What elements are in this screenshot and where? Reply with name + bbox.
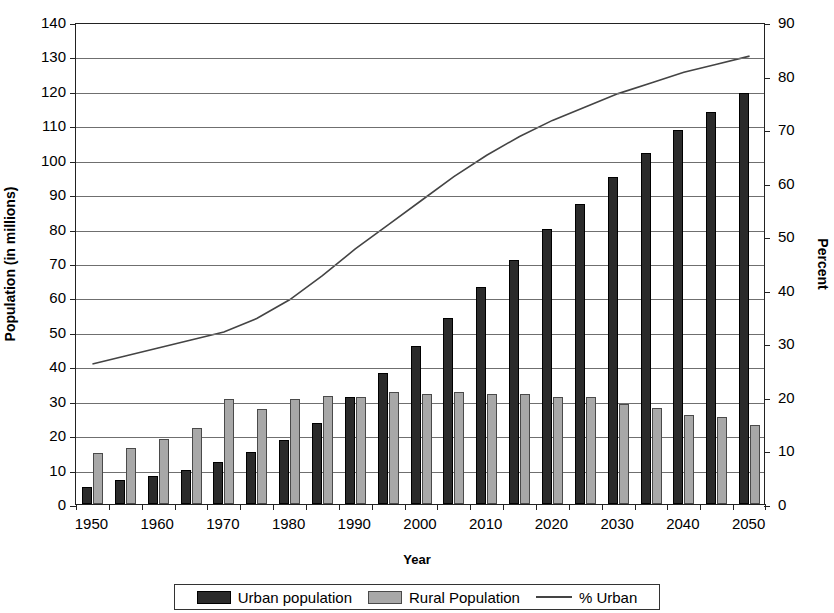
y-tick-label-right: 40 [778,284,822,298]
gridline [76,162,764,163]
y-tick-mark-left [70,334,76,335]
gridline [76,93,764,94]
x-tick-mark [76,504,77,510]
bar-rural-population [126,448,136,504]
x-tick-label: 2050 [719,515,779,532]
chart-legend: Urban population Rural Population % Urba… [174,584,660,610]
bar-rural-population [487,394,497,504]
bar-urban-population [706,112,716,504]
bar-rural-population [389,392,399,504]
y-tick-label-right: 30 [778,337,822,351]
x-tick-mark [273,504,274,510]
x-tick-mark [405,504,406,510]
y-tick-label-right: 10 [778,444,822,458]
y-tick-mark-right [764,24,770,25]
bar-urban-population [82,487,92,504]
bar-urban-population [575,204,585,504]
x-tick-mark [109,504,110,510]
bar-rural-population [356,397,366,504]
x-tick-mark [733,504,734,510]
legend-swatch-urban-icon [197,591,231,604]
y-tick-label-left: 120 [22,85,66,99]
x-tick-mark [339,504,340,510]
x-tick-label: 2020 [521,515,581,532]
bar-urban-population [542,229,552,504]
legend-label-percent-urban: % Urban [579,589,637,606]
x-tick-mark [372,504,373,510]
x-tick-mark [765,504,766,510]
y-tick-label-right: 90 [778,16,822,30]
x-tick-label: 1980 [259,515,319,532]
y-tick-label-left: 10 [22,464,66,478]
gridline [76,265,764,266]
legend-item-percent-urban: % Urban [536,589,637,606]
x-tick-mark [503,504,504,510]
y-tick-mark-left [70,231,76,232]
y-tick-label-right: 0 [778,498,822,512]
y-tick-mark-left [70,265,76,266]
y-tick-label-left: 30 [22,395,66,409]
gridline [76,299,764,300]
y-tick-mark-right [764,238,770,239]
bar-rural-population [290,399,300,504]
x-tick-mark [175,504,176,510]
y-tick-mark-right [764,399,770,400]
x-tick-label: 1970 [193,515,253,532]
x-tick-mark [207,504,208,510]
x-tick-mark [306,504,307,510]
x-tick-label: 2010 [456,515,516,532]
bar-urban-population [476,287,486,504]
x-tick-label: 2040 [653,515,713,532]
y-tick-mark-right [764,452,770,453]
bar-urban-population [608,177,618,504]
y-tick-mark-left [70,299,76,300]
bar-rural-population [192,428,202,504]
legend-swatch-line-icon [536,596,572,598]
x-tick-label: 1960 [127,515,187,532]
y-tick-mark-left [70,472,76,473]
legend-label-rural: Rural Population [409,589,520,606]
x-tick-label: 1990 [324,515,384,532]
bar-urban-population [739,93,749,504]
plot-area [75,23,765,505]
bar-urban-population [279,440,289,504]
y-tick-mark-right [764,292,770,293]
bar-urban-population [443,318,453,504]
y-tick-mark-left [70,24,76,25]
x-tick-mark [437,504,438,510]
bar-rural-population [159,439,169,504]
y-tick-label-right: 60 [778,177,822,191]
bar-urban-population [411,346,421,504]
y-tick-label-left: 60 [22,291,66,305]
legend-label-urban: Urban population [238,589,352,606]
y-tick-label-right: 50 [778,230,822,244]
bar-rural-population [750,425,760,504]
gridline [76,231,764,232]
bar-urban-population [641,153,651,504]
gridline [76,196,764,197]
y-tick-mark-right [764,185,770,186]
bar-rural-population [93,453,103,504]
y-tick-label-left: 100 [22,154,66,168]
gridline [76,58,764,59]
legend-swatch-rural-icon [368,591,402,604]
bar-urban-population [509,260,519,504]
bar-urban-population [345,397,355,504]
gridline [76,127,764,128]
y-tick-mark-right [764,345,770,346]
y-tick-label-right: 70 [778,123,822,137]
x-tick-mark [240,504,241,510]
x-axis-label: Year [0,552,834,567]
y-tick-label-left: 90 [22,188,66,202]
y-tick-mark-left [70,368,76,369]
y-axis-label-right: Percent [812,23,834,505]
y-axis-label-left: Population (in millions) [0,23,22,505]
bar-rural-population [717,417,727,504]
bar-rural-population [586,397,596,504]
y-tick-mark-left [70,93,76,94]
y-tick-mark-left [70,437,76,438]
x-tick-mark [700,504,701,510]
x-tick-mark [667,504,668,510]
x-tick-mark [602,504,603,510]
bar-rural-population [323,396,333,504]
